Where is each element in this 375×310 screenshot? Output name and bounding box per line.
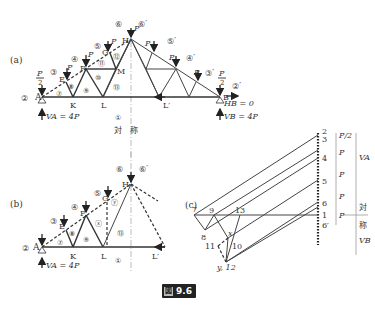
- svg-text:4: 4: [322, 154, 327, 163]
- svg-text:②: ②: [22, 244, 29, 253]
- svg-text:⑧: ⑧: [69, 230, 75, 238]
- symmetry-label: 対 称: [114, 125, 138, 135]
- svg-text:5: 5: [322, 177, 327, 186]
- svg-text:④: ④: [71, 203, 78, 212]
- svg-text:④′: ④′: [186, 54, 195, 63]
- svg-text:⑪: ⑪: [98, 60, 105, 68]
- node-H: H: [122, 36, 129, 45]
- svg-text:②′: ②′: [232, 82, 241, 91]
- svg-text:2: 2: [220, 79, 224, 87]
- figure-caption: 図 9.6: [162, 284, 196, 298]
- svg-text:9: 9: [209, 206, 214, 215]
- svg-text:8: 8: [201, 233, 206, 242]
- svg-text:③′: ③′: [205, 69, 214, 78]
- svg-text:1: 1: [322, 211, 327, 220]
- svg-text:P/2: P/2: [338, 131, 352, 140]
- svg-text:⑤: ⑤: [94, 42, 101, 51]
- svg-text:⑬: ⑬: [117, 230, 124, 238]
- svg-text:VA: VA: [359, 153, 370, 162]
- reaction-VA: VA = 4P: [46, 112, 80, 121]
- node-L-prime: L′: [163, 101, 170, 110]
- svg-text:11: 11: [205, 242, 215, 251]
- svg-text:2: 2: [38, 79, 42, 87]
- svg-text:⑦: ⑦: [57, 239, 63, 247]
- svg-text:P: P: [338, 192, 345, 201]
- svg-text:⑤′: ⑤′: [167, 37, 176, 46]
- svg-text:⑩: ⑩: [95, 74, 101, 82]
- svg-text:H: H: [122, 180, 129, 189]
- truss-figure: (a) A E F G H K L M B L′ P 2 P P P P P P…: [0, 0, 375, 310]
- svg-text:ⓨ: ⓨ: [111, 199, 118, 207]
- svg-text:⑧: ⑧: [68, 83, 74, 91]
- node-G: G: [102, 48, 108, 57]
- svg-text:⑦: ⑦: [56, 90, 62, 98]
- svg-text:L: L: [101, 252, 107, 261]
- svg-text:P: P: [168, 53, 175, 62]
- svg-text:P: P: [66, 63, 73, 72]
- svg-text:P: P: [338, 170, 345, 179]
- caption-number: 9.6: [176, 284, 192, 298]
- svg-text:ⓧ: ⓧ: [95, 220, 102, 228]
- node-M: M: [117, 67, 125, 76]
- svg-text:⑤: ⑤: [94, 189, 101, 198]
- svg-text:⑥′: ⑥′: [139, 165, 148, 174]
- svg-text:対: 対: [359, 202, 367, 212]
- svg-text:3: 3: [322, 135, 327, 144]
- svg-text:⑫: ⑫: [113, 53, 120, 61]
- svg-text:③: ③: [50, 217, 57, 226]
- reaction-HB: HB = 0: [223, 99, 254, 108]
- svg-text:⑥: ⑥: [116, 165, 123, 174]
- svg-text:②: ②: [21, 94, 28, 103]
- svg-text:①: ①: [115, 257, 121, 265]
- svg-text:P: P: [144, 39, 151, 48]
- svg-text:①: ①: [115, 114, 121, 122]
- svg-text:6: 6: [322, 199, 327, 208]
- svg-text:x: x: [228, 229, 233, 238]
- panel-a: (a) A E F G H K L M B L′ P 2 P P P P P P…: [10, 20, 259, 158]
- node-F: F: [80, 64, 86, 73]
- svg-text:⑨: ⑨: [83, 236, 89, 244]
- panel-a-label: (a): [10, 55, 22, 65]
- node-E: E: [59, 75, 65, 84]
- svg-text:P: P: [110, 37, 117, 46]
- svg-text:P: P: [338, 211, 345, 220]
- svg-text:E: E: [59, 222, 65, 231]
- svg-text:P: P: [87, 50, 94, 59]
- svg-text:⑥: ⑥: [115, 20, 122, 29]
- svg-text:P: P: [338, 148, 345, 157]
- svg-text:P: P: [218, 69, 225, 78]
- svg-text:称: 称: [359, 220, 367, 230]
- node-A: A: [34, 92, 42, 102]
- svg-text:VA = 4P: VA = 4P: [46, 261, 80, 270]
- svg-text:K: K: [70, 252, 77, 261]
- svg-text:10: 10: [232, 242, 242, 251]
- svg-text:VB: VB: [359, 236, 371, 245]
- svg-text:13: 13: [235, 206, 245, 215]
- panel-b-label: (b): [10, 199, 23, 209]
- svg-text:L′: L′: [152, 252, 159, 261]
- svg-text:6′: 6′: [322, 221, 329, 230]
- caption-prefix: 図: [164, 287, 173, 296]
- svg-text:7: 7: [192, 205, 197, 214]
- svg-text:⑨: ⑨: [83, 87, 89, 95]
- load-end-A: P: [36, 69, 43, 78]
- svg-text:③: ③: [50, 68, 57, 77]
- reaction-VB: VB = 4P: [224, 112, 259, 121]
- panel-c: (c) 7 9 13 8 x 11 10 y, 12 2 3 4 5 6 1 6…: [185, 127, 371, 272]
- svg-text:A: A: [32, 242, 40, 252]
- svg-text:⑥′: ⑥′: [138, 20, 147, 29]
- svg-text:G: G: [102, 194, 108, 203]
- svg-text:y, 12: y, 12: [216, 263, 236, 272]
- node-L: L: [101, 101, 107, 110]
- panel-b: (b) A E F G H K L L′ ② ③ ④ ⑤ ⑥ ⑦ ⑧ ⑨ ⓧ ⓨ…: [10, 152, 165, 272]
- svg-text:P: P: [193, 68, 200, 77]
- svg-text:F: F: [80, 209, 86, 218]
- svg-text:④: ④: [71, 55, 78, 64]
- svg-text:⑬: ⑬: [113, 84, 120, 92]
- node-K: K: [70, 101, 77, 110]
